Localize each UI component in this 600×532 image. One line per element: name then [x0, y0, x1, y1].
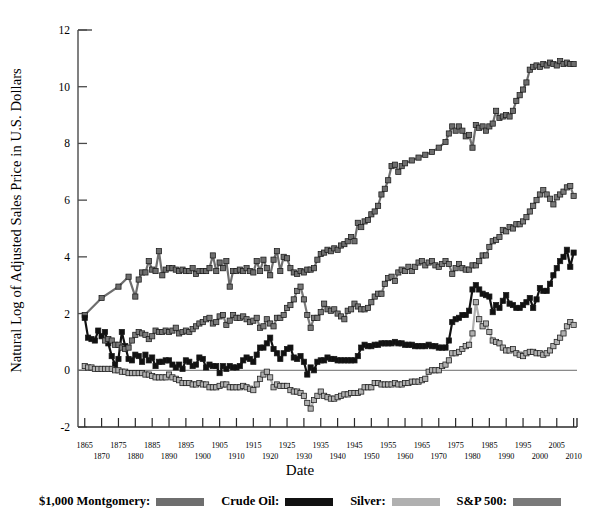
x-tick-label: 1975: [447, 441, 463, 450]
x-tick-label: 1985: [481, 441, 497, 450]
x-tick-label: 1950: [363, 452, 379, 461]
x-tick-label: 2005: [549, 441, 565, 450]
legend-label: Crude Oil:: [221, 494, 279, 509]
series-0: [82, 59, 576, 318]
x-axis-title: Date: [0, 462, 600, 479]
x-tick-label: 1970: [431, 452, 447, 461]
x-tick-label: 1990: [498, 452, 514, 461]
legend-label: S&P 500:: [457, 494, 507, 509]
legend-label: $1,000 Montgomery:: [39, 494, 150, 509]
x-tick-label: 1865: [77, 441, 93, 450]
x-tick-label: 1905: [211, 441, 227, 450]
x-tick-label: 1955: [380, 441, 396, 450]
x-tick-label: 1915: [245, 441, 261, 450]
x-tick-label: 1935: [313, 441, 329, 450]
y-tick-label: -2: [60, 421, 70, 433]
y-axis-title-wrap: Natural Log of Adjusted Sales Price in U…: [0, 0, 32, 440]
x-tick-label: 1960: [397, 452, 413, 461]
y-tick-label: 10: [59, 81, 71, 93]
x-tick-label: 2010: [565, 452, 581, 461]
chart-legend: $1,000 Montgomery:Crude Oil:Silver:S&P 5…: [0, 494, 600, 509]
x-tick-label: 1930: [296, 452, 312, 461]
x-tick-label: 1870: [93, 452, 109, 461]
x-tick-label: 1885: [144, 441, 160, 450]
x-tick-label: 1880: [127, 452, 143, 461]
legend-entry-2: Silver:: [350, 494, 439, 509]
legend-swatch: [392, 498, 440, 506]
y-tick-label: 0: [64, 364, 70, 376]
legend-entry-1: Crude Oil:: [221, 494, 333, 509]
x-tick-label: 1875: [110, 441, 126, 450]
x-tick-label: 1910: [228, 452, 244, 461]
x-tick-label: 1965: [414, 441, 430, 450]
x-tick-label: 1980: [464, 452, 480, 461]
x-tick-label: 1925: [279, 441, 295, 450]
plot-area: -202468101218651870187518801885189018951…: [0, 0, 600, 470]
y-tick-label: 4: [64, 251, 70, 263]
y-tick-label: 6: [64, 194, 70, 206]
legend-label: Silver:: [350, 494, 385, 509]
legend-entry-0: $1,000 Montgomery:: [39, 494, 204, 509]
x-tick-label: 1995: [515, 441, 531, 450]
x-tick-label: 1890: [161, 452, 177, 461]
legend-swatch: [513, 498, 561, 506]
legend-swatch: [285, 498, 333, 506]
x-tick-label: 1895: [178, 441, 194, 450]
x-tick-label: 2000: [532, 452, 548, 461]
y-tick-label: 8: [64, 137, 70, 149]
y-axis-title: Natural Log of Adjusted Sales Price in U…: [8, 68, 25, 373]
x-tick-label: 1920: [262, 452, 278, 461]
x-tick-label: 1900: [195, 452, 211, 461]
y-tick-label: 12: [59, 24, 71, 36]
chart-figure: Natural Log of Adjusted Sales Price in U…: [0, 0, 600, 532]
legend-entry-3: S&P 500:: [457, 494, 561, 509]
legend-swatch: [156, 498, 204, 506]
x-tick-label: 1940: [329, 452, 345, 461]
y-tick-label: 2: [64, 308, 70, 320]
x-tick-label: 1945: [346, 441, 362, 450]
